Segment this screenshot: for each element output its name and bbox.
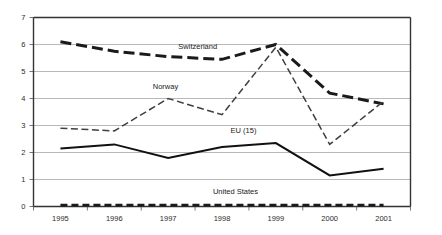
series-annotation-labels: SwitzerlandNorwayEU (15)United States bbox=[153, 42, 258, 197]
y-tick-label: 1 bbox=[21, 175, 25, 184]
chart-canvas: 01234567 1995199619971998199920002001 Sw… bbox=[0, 0, 442, 235]
x-tick-label: 1999 bbox=[268, 214, 285, 223]
series-label-norway: Norway bbox=[153, 82, 179, 91]
y-tick-label: 0 bbox=[21, 202, 25, 211]
series-line-eu-15 bbox=[60, 143, 383, 175]
series-label-eu-15: EU (15) bbox=[231, 126, 257, 135]
y-tick-label: 6 bbox=[21, 40, 25, 49]
line-chart: 01234567 1995199619971998199920002001 Sw… bbox=[0, 0, 442, 235]
data-series-group bbox=[60, 42, 383, 205]
series-line-norway bbox=[60, 47, 383, 144]
x-axis-tick-labels: 1995199619971998199920002001 bbox=[52, 214, 392, 223]
series-label-united-states: United States bbox=[213, 187, 258, 196]
y-axis-tick-labels: 01234567 bbox=[21, 13, 25, 211]
y-tick-label: 4 bbox=[21, 94, 25, 103]
x-tick-label: 1997 bbox=[160, 214, 177, 223]
y-tick-label: 3 bbox=[21, 121, 25, 130]
series-label-switzerland: Switzerland bbox=[178, 42, 217, 51]
series-line-switzerland bbox=[60, 42, 383, 104]
x-tick-label: 2001 bbox=[375, 214, 392, 223]
x-tick-label: 2000 bbox=[321, 214, 338, 223]
x-tick-label: 1998 bbox=[214, 214, 231, 223]
y-tick-label: 2 bbox=[21, 148, 25, 157]
plot-frame bbox=[34, 18, 411, 207]
x-tick-label: 1995 bbox=[52, 214, 69, 223]
y-tick-label: 5 bbox=[21, 67, 25, 76]
y-tick-label: 7 bbox=[21, 13, 25, 22]
x-tick-label: 1996 bbox=[106, 214, 123, 223]
